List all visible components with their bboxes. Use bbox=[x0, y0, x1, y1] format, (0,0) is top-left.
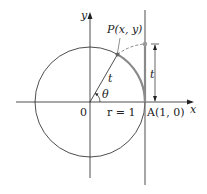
y-axis-arrow-icon bbox=[88, 12, 93, 19]
unit-circle-diagram: y x P(x, y) t t θ 0 r = 1 A(1, 0) bbox=[0, 0, 207, 194]
radius-label: r = 1 bbox=[107, 106, 135, 119]
point-a-label: A(1, 0) bbox=[146, 106, 185, 119]
vertical-t-label: t bbox=[150, 68, 155, 81]
y-axis-label: y bbox=[80, 9, 88, 22]
origin-label: 0 bbox=[80, 106, 87, 119]
t-measure-down-arrow-icon bbox=[153, 96, 157, 102]
t-measure-up-arrow-icon bbox=[153, 45, 157, 51]
p-leader-line bbox=[118, 38, 121, 53]
arc-length-label: t bbox=[108, 72, 113, 85]
angle-label: θ bbox=[102, 88, 109, 101]
point-wrapped bbox=[143, 42, 147, 46]
x-axis-label: x bbox=[190, 103, 197, 116]
point-p-label: P(x, y) bbox=[106, 23, 142, 36]
arc-t bbox=[118, 54, 146, 102]
dashed-arc bbox=[118, 44, 146, 54]
